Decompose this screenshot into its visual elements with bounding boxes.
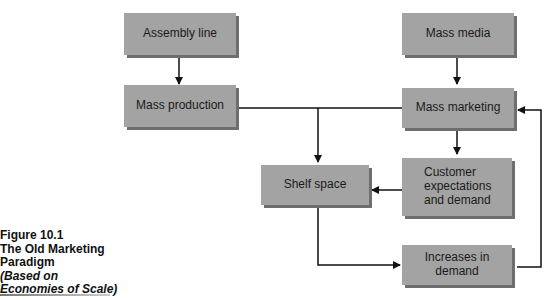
node-mass-media: Mass media: [402, 13, 514, 55]
node-label: Increases in demand: [422, 251, 492, 279]
figure-title: The Old Marketing Paradigm: [0, 243, 125, 270]
node-increases-in-demand: Increases in demand: [402, 245, 512, 285]
node-label: Mass media: [426, 27, 491, 41]
figure-caption: Figure 10.1 The Old Marketing Paradigm (…: [0, 229, 125, 297]
node-mass-production: Mass production: [124, 85, 236, 127]
caption-divider: [0, 294, 110, 296]
figure-number: Figure 10.1: [0, 229, 125, 243]
node-label: Shelf space: [284, 178, 347, 192]
figure-subtitle-1: (Based on: [0, 270, 125, 284]
node-label: Assembly line: [143, 27, 217, 41]
node-assembly-line: Assembly line: [124, 13, 236, 55]
node-mass-marketing: Mass marketing: [402, 88, 514, 128]
node-label: Mass production: [136, 99, 224, 113]
node-customer-expectations: Customer expectations and demand: [402, 158, 512, 216]
node-shelf-space: Shelf space: [261, 165, 369, 205]
node-label: Mass marketing: [416, 101, 501, 115]
node-label: Customer expectations and demand: [424, 166, 504, 207]
